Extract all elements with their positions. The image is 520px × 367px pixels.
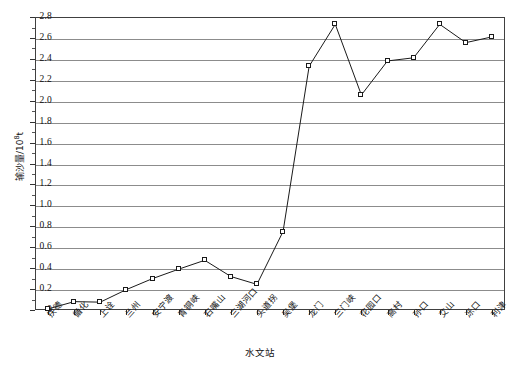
data-point-marker [71, 299, 76, 304]
data-point-marker [306, 63, 311, 68]
data-point-marker [202, 257, 207, 262]
y-axis-minor-tick [32, 48, 35, 49]
y-axis-title-exponent: 8 [13, 135, 21, 139]
y-axis-title: 输沙量/108t [13, 112, 26, 202]
data-point-marker [280, 229, 285, 234]
y-axis-minor-tick [32, 216, 35, 217]
data-point-marker [150, 276, 155, 281]
y-axis-tick-label: 1.0 [12, 200, 52, 210]
data-point-marker [45, 306, 50, 311]
y-axis-tick-label: 0.8 [12, 221, 52, 231]
y-axis-tick-label: 0.4 [12, 263, 52, 273]
data-point-marker [463, 40, 468, 45]
y-axis-tick-label: 2.6 [12, 33, 52, 43]
y-axis-minor-tick [32, 111, 35, 112]
data-point-marker [358, 92, 363, 97]
data-point-marker [489, 34, 494, 39]
y-axis-minor-tick [32, 153, 35, 154]
y-axis-minor-tick [32, 69, 35, 70]
sediment-load-line-chart: 00.20.40.60.81.01.21.41.61.82.02.22.42.6… [0, 0, 520, 367]
y-axis-minor-tick [32, 174, 35, 175]
y-axis-tick-label: 2.2 [12, 75, 52, 85]
y-axis-tick-label: 2.8 [12, 12, 52, 22]
data-point-marker [228, 274, 233, 279]
y-axis-title-text: 输沙量/10 [15, 140, 25, 181]
y-axis-tick-label: 2.4 [12, 54, 52, 64]
y-axis-minor-tick [32, 258, 35, 259]
data-point-marker [176, 266, 181, 271]
data-point-marker [254, 281, 259, 286]
y-axis-minor-tick [32, 28, 35, 29]
y-axis-title-unit: t [15, 132, 25, 136]
y-axis-tick-label: 0.2 [12, 284, 52, 294]
x-axis-title: 水文站 [0, 345, 520, 359]
y-axis-minor-tick [32, 237, 35, 238]
data-point-marker [332, 21, 337, 26]
y-axis-tick-label: 2.0 [12, 96, 52, 106]
data-point-marker [385, 58, 390, 63]
y-axis-minor-tick [32, 300, 35, 301]
data-point-marker [97, 299, 102, 304]
y-axis-minor-tick [32, 279, 35, 280]
y-axis-tick-label: 0.6 [12, 242, 52, 252]
y-axis-minor-tick [32, 195, 35, 196]
data-point-marker [437, 21, 442, 26]
data-point-marker [411, 55, 416, 60]
y-axis-minor-tick [32, 90, 35, 91]
data-point-marker [123, 287, 128, 292]
y-axis-minor-tick [32, 132, 35, 133]
